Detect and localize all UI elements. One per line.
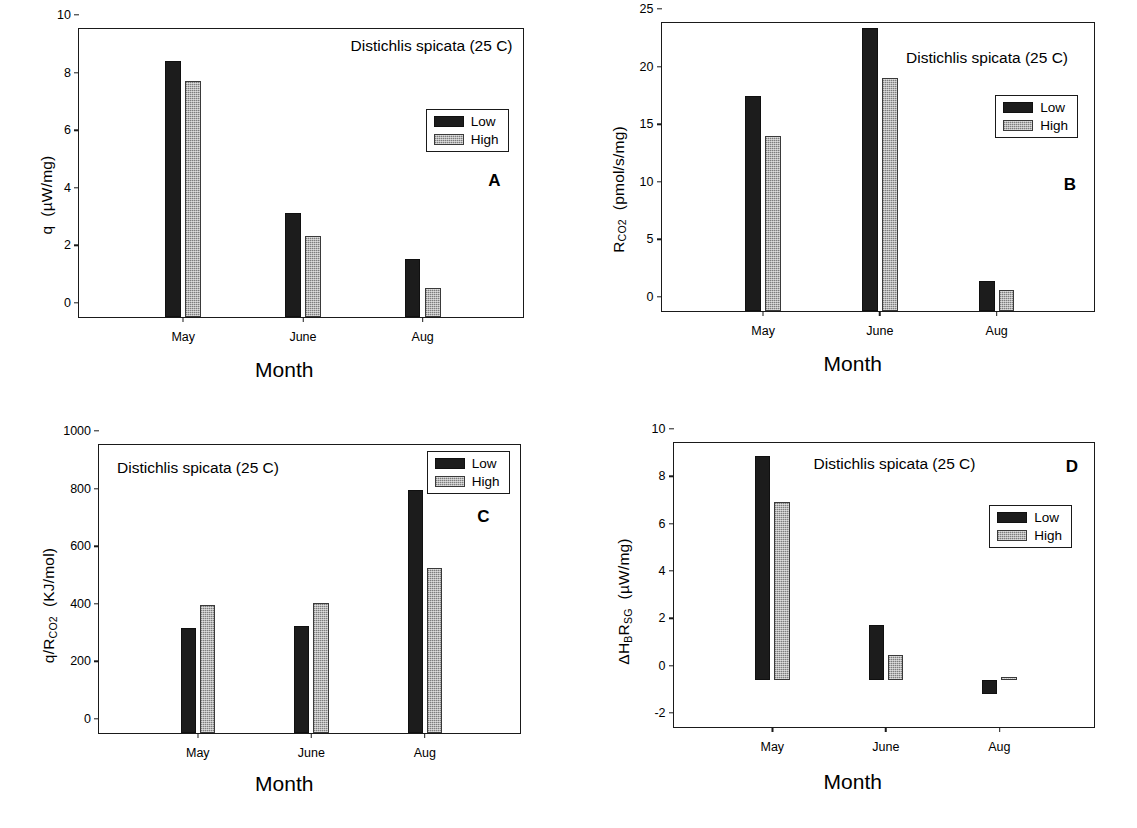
bar-high — [427, 568, 442, 733]
plot-area-b: Distichlis spicata (25 C) B Low High 051… — [661, 22, 1096, 312]
species-title-b: Distichlis spicata (25 C) — [906, 49, 1068, 67]
legend-swatch-high-icon — [434, 134, 464, 145]
legend-c: Low High — [427, 451, 510, 494]
legend-label-low: Low — [471, 115, 496, 129]
y-tick-label: 15 — [640, 117, 662, 131]
bar-high — [888, 655, 903, 680]
y-axis-title-a: q (µW/mg) — [38, 100, 56, 290]
legend-row-high: High — [434, 133, 499, 147]
x-tick-label: Aug — [986, 311, 1008, 338]
legend-label-low: Low — [1034, 511, 1059, 525]
x-tick-label: May — [171, 317, 195, 344]
x-tick-label: June — [298, 733, 325, 760]
bar-high — [765, 136, 781, 311]
legend-label-high: High — [1040, 119, 1068, 133]
y-axis-title-b: RCO2 (pmol/s/mg) — [609, 79, 628, 299]
x-tick-label: Aug — [414, 733, 436, 760]
legend-row-low: Low — [997, 511, 1062, 525]
x-axis-title-a: Month — [0, 358, 569, 382]
panel-letter-b: B — [1064, 175, 1076, 195]
legend-row-low: Low — [1003, 101, 1068, 115]
y-tick-label: 6 — [64, 123, 79, 137]
x-tick-label: May — [186, 733, 210, 760]
panel-c: Distichlis spicata (25 C) C Low High 020… — [0, 414, 569, 828]
bar-low — [862, 28, 878, 311]
legend-row-high: High — [997, 529, 1062, 543]
species-title-a: Distichlis spicata (25 C) — [351, 37, 513, 55]
legend-label-low: Low — [472, 457, 497, 471]
legend-label-low: Low — [1040, 101, 1065, 115]
y-tick-label: -2 — [654, 706, 673, 720]
legend-swatch-low-icon — [1003, 102, 1033, 113]
panel-letter-c: C — [477, 507, 489, 527]
y-tick-label: 800 — [70, 482, 99, 496]
plot-area-d: Distichlis spicata (25 C) D Low High -20… — [673, 442, 1096, 728]
bar-high — [999, 290, 1015, 311]
y-tick-label: 400 — [70, 597, 99, 611]
y-tick-label: 4 — [659, 564, 674, 578]
y-tick-label: 2 — [659, 611, 674, 625]
legend-swatch-high-icon — [435, 476, 465, 487]
x-tick-label: Aug — [412, 317, 434, 344]
y-tick-label: 0 — [647, 290, 662, 304]
panel-d: Distichlis spicata (25 C) D Low High -20… — [569, 414, 1137, 828]
x-axis-title-b: Month — [569, 352, 1137, 376]
bar-low — [408, 490, 423, 733]
y-tick-label: 20 — [640, 60, 662, 74]
bar-low — [181, 628, 196, 733]
bar-low — [405, 259, 421, 317]
panel-letter-a: A — [488, 171, 500, 191]
y-tick-label: 0 — [659, 659, 674, 673]
bar-high — [185, 81, 201, 317]
legend-swatch-high-icon — [1003, 120, 1033, 131]
legend-row-low: Low — [434, 115, 499, 129]
y-tick-label: 0 — [84, 712, 99, 726]
bar-low — [294, 626, 309, 733]
legend-a: Low High — [426, 109, 509, 152]
y-tick-label: 600 — [70, 539, 99, 553]
bar-high — [1001, 677, 1016, 679]
y-tick-label: 2 — [64, 238, 79, 252]
y-axis-title-c: q/RCO2 (KJ/mol) — [40, 498, 59, 713]
bar-low — [165, 61, 181, 317]
x-tick-label: Aug — [988, 727, 1010, 754]
y-tick-label: 6 — [659, 517, 674, 531]
panel-a: Distichlis spicata (25 C) A Low High 024… — [0, 0, 569, 414]
legend-row-high: High — [435, 475, 500, 489]
plot-area-a: Distichlis spicata (25 C) A Low High 024… — [78, 28, 524, 318]
x-axis-title-c: Month — [0, 772, 569, 796]
bar-low — [285, 213, 301, 317]
bar-low — [745, 96, 761, 311]
species-title-c: Distichlis spicata (25 C) — [117, 459, 279, 477]
y-tick-label: 4 — [64, 181, 79, 195]
y-tick-label: 10 — [57, 8, 79, 22]
legend-b: Low High — [995, 95, 1078, 138]
y-tick-label: 8 — [659, 469, 674, 483]
plot-area-c: Distichlis spicata (25 C) C Low High 020… — [98, 444, 521, 734]
legend-swatch-low-icon — [997, 512, 1027, 523]
legend-row-high: High — [1003, 119, 1068, 133]
legend-label-high: High — [1034, 529, 1062, 543]
legend-d: Low High — [989, 505, 1072, 548]
legend-label-high: High — [472, 475, 500, 489]
panel-b: Distichlis spicata (25 C) B Low High 051… — [569, 0, 1137, 414]
x-tick-label: June — [872, 727, 899, 754]
x-axis-title-d: Month — [569, 770, 1137, 794]
legend-swatch-high-icon — [997, 530, 1027, 541]
bar-high — [774, 502, 789, 680]
legend-label-high: High — [471, 133, 499, 147]
x-tick-label: June — [289, 317, 316, 344]
y-tick-label: 10 — [640, 175, 662, 189]
y-axis-title-d: ΔHBRSG (µW/mg) — [615, 494, 634, 709]
bar-high — [200, 605, 215, 733]
bar-high — [313, 603, 328, 733]
y-tick-label: 25 — [640, 2, 662, 16]
bar-low — [979, 281, 995, 311]
bar-high — [882, 78, 898, 311]
legend-swatch-low-icon — [435, 458, 465, 469]
bar-high — [305, 236, 321, 317]
bar-low — [982, 680, 997, 694]
bar-low — [869, 625, 884, 679]
bar-high — [425, 288, 441, 317]
y-tick-label: 1000 — [63, 424, 99, 438]
